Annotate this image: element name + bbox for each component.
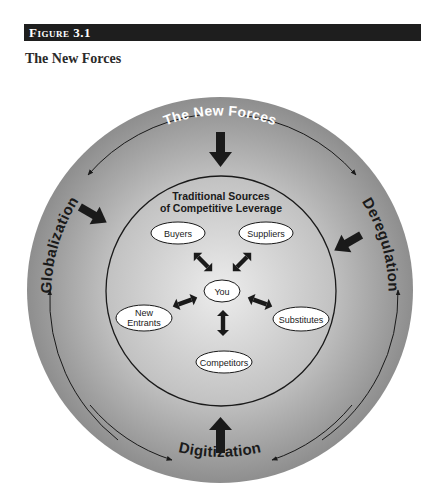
svg-text:Suppliers: Suppliers (247, 229, 285, 239)
node-you: You (204, 280, 240, 302)
svg-text:You: You (214, 287, 229, 297)
inner-title-line2: of Competitive Leverage (160, 202, 282, 214)
node-substitutes: Substitutes (273, 307, 329, 331)
node-new-entrants: New Entrants (116, 305, 172, 331)
svg-text:New: New (135, 308, 154, 318)
new-forces-diagram: The New Forces Globalization Deregulatio… (0, 0, 440, 502)
svg-text:Competitors: Competitors (200, 358, 249, 368)
svg-text:Buyers: Buyers (164, 229, 193, 239)
node-buyers: Buyers (151, 222, 205, 244)
svg-text:Substitutes: Substitutes (279, 315, 324, 325)
node-competitors: Competitors (196, 351, 252, 373)
inner-title-line1: Traditional Sources (172, 190, 270, 202)
svg-text:Entrants: Entrants (127, 318, 161, 328)
node-suppliers: Suppliers (239, 222, 293, 244)
